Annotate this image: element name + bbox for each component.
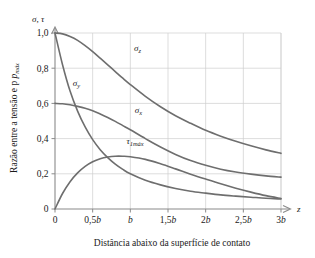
y-axis-symbol-label: σ, τ bbox=[32, 14, 45, 24]
hertzian-contact-stress-chart: 00,20,40,60,81,000,5bb1,5b2b2,5b3b σzσyσ… bbox=[0, 0, 315, 258]
x-tick-label: 3b bbox=[276, 215, 286, 225]
y-tick-label: 0,4 bbox=[37, 134, 49, 144]
y-tick-label: 0 bbox=[44, 204, 49, 214]
chart-svg: 00,20,40,60,81,000,5bb1,5b2b2,5b3b σzσyσ… bbox=[0, 0, 315, 258]
x-tick-label: 0,5b bbox=[84, 215, 101, 225]
y-tick-label: 1,0 bbox=[37, 28, 49, 38]
x-tick-label: 2,5b bbox=[235, 215, 252, 225]
y-tick-label: 0,2 bbox=[37, 169, 49, 179]
x-tick-label: 1,5b bbox=[160, 215, 177, 225]
chart-background bbox=[0, 0, 315, 258]
x-axis-symbol-label: z bbox=[296, 204, 301, 214]
y-tick-label: 0,6 bbox=[37, 99, 49, 109]
y-axis-title: Razão entre a tensão e p pmáx bbox=[9, 63, 20, 173]
x-tick-label: b bbox=[128, 215, 133, 225]
x-axis-title: Distância abaixo da superfície de contat… bbox=[94, 238, 251, 248]
x-tick-label: 0 bbox=[53, 215, 58, 225]
y-tick-label: 0,8 bbox=[37, 64, 49, 74]
x-tick-label: 2b bbox=[201, 215, 211, 225]
